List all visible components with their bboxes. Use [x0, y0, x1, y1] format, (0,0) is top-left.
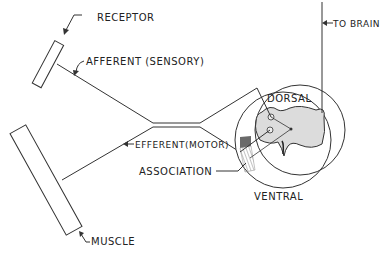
afferent-label: AFFERENT (SENSORY) — [86, 56, 204, 67]
to-brain-arrow — [322, 20, 333, 26]
receptor-label: RECEPTOR — [97, 12, 155, 23]
muscle-arrow — [79, 231, 90, 242]
association-label: ASSOCIATION — [139, 166, 212, 177]
to-brain-label: TO BRAIN — [332, 19, 380, 29]
muscle — [10, 125, 82, 235]
afferent-arrow — [73, 61, 84, 76]
efferent-label: EFFERENT(MOTOR) — [135, 140, 229, 150]
afferent-nerve — [57, 64, 153, 123]
receptor-arrow — [63, 15, 82, 35]
receptor — [32, 41, 63, 88]
reflex-arc-diagram: RECEPTOR AFFERENT (SENSORY) EFFERENT(MOT… — [0, 0, 390, 259]
efferent-arrow — [123, 141, 134, 147]
dorsal-label: DORSAL — [267, 93, 311, 104]
ventral-label: VENTRAL — [254, 191, 303, 202]
muscle-label: MUSCLE — [91, 236, 135, 247]
